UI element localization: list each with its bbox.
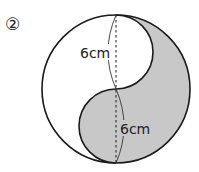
lower-length-label: 6cm (120, 121, 150, 137)
problem-number: ② (5, 14, 20, 34)
shaded-region (79, 15, 190, 163)
yin-yang-figure: 6cm 6cm ② (0, 0, 199, 172)
upper-length-label: 6cm (80, 45, 110, 61)
